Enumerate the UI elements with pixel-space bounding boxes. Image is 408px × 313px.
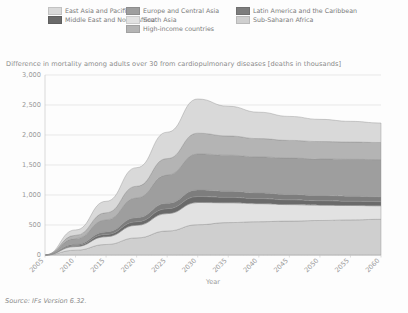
legend-item-east-asia-and-pacific: East Asia and Pacific	[4, 6, 126, 15]
legend-item-middle-east-and-north-africa: Middle East and North Africa	[4, 15, 126, 24]
legend-label-europe-and-central-asia: Europe and Central Asia	[143, 6, 219, 15]
x-axis-tick-label: 2015	[89, 257, 107, 275]
x-axis-tick-label: 2005	[28, 257, 46, 275]
stacked-area-chart: 05001,0001,5002,0002,5003,00020052010201…	[0, 70, 408, 290]
y-axis-tick-label: 3,000	[22, 71, 41, 79]
legend-label-latin-america-and-the-caribbean: Latin America and the Caribbean	[253, 6, 357, 15]
legend-swatch-south-asia	[126, 16, 140, 24]
legend-swatch-east-asia-and-pacific	[48, 7, 62, 15]
legend-swatch-europe-and-central-asia	[126, 7, 140, 15]
legend-item-sub-saharan-africa: Sub-Saharan Africa	[236, 15, 368, 24]
legend-item-europe-and-central-asia: Europe and Central Asia	[126, 6, 236, 15]
x-axis-tick-label: 2030	[181, 257, 199, 275]
legend-spacer-left	[4, 24, 126, 33]
y-axis-tick-label: 2,500	[22, 101, 41, 109]
legend-label-high-income-countries: High-income countries	[143, 24, 214, 33]
y-axis-tick-label: 1,500	[22, 161, 41, 169]
legend-swatch-high-income-countries	[126, 25, 140, 33]
chart-title: Difference in mortality among adults ove…	[6, 60, 341, 68]
x-axis-tick-label: 2045	[272, 257, 290, 275]
legend-spacer-right	[236, 24, 368, 33]
x-axis-tick-label: 2020	[120, 257, 138, 275]
chart-page: East Asia and Pacific Europe and Central…	[0, 0, 408, 313]
x-axis-title: Year	[205, 278, 220, 286]
y-axis-tick-label: 1,000	[22, 191, 41, 199]
x-axis-tick-label: 2010	[58, 257, 76, 275]
y-axis-tick-label: 2,000	[22, 131, 41, 139]
x-axis-tick-label: 2060	[364, 257, 382, 275]
x-axis-tick-label: 2035	[211, 257, 229, 275]
legend-row-1: East Asia and Pacific Europe and Central…	[4, 6, 404, 15]
legend-swatch-latin-america-and-the-caribbean	[236, 7, 250, 15]
x-axis-tick-label: 2025	[150, 257, 168, 275]
legend-item-high-income-countries: High-income countries	[126, 24, 236, 33]
legend-item-south-asia: South Asia	[126, 15, 236, 24]
x-axis-tick-label: 2055	[333, 257, 351, 275]
legend-label-sub-saharan-africa: Sub-Saharan Africa	[253, 15, 313, 24]
chart-legend: East Asia and Pacific Europe and Central…	[0, 6, 408, 33]
source-note: Source: IFs Version 6.32.	[5, 297, 87, 305]
legend-swatch-sub-saharan-africa	[236, 16, 250, 24]
legend-swatch-middle-east-and-north-africa	[48, 16, 62, 24]
legend-row-3: High-income countries	[4, 24, 404, 33]
y-axis-tick-label: 500	[28, 221, 41, 229]
chart-plot-area: 05001,0001,5002,0002,5003,00020052010201…	[0, 70, 408, 265]
legend-label-south-asia: South Asia	[143, 15, 177, 24]
legend-row-2: Middle East and North Africa South Asia …	[4, 15, 404, 24]
legend-item-latin-america-and-the-caribbean: Latin America and the Caribbean	[236, 6, 368, 15]
x-axis-tick-label: 2040	[242, 257, 260, 275]
x-axis-tick-label: 2050	[303, 257, 321, 275]
legend-label-east-asia-and-pacific: East Asia and Pacific	[65, 6, 130, 15]
